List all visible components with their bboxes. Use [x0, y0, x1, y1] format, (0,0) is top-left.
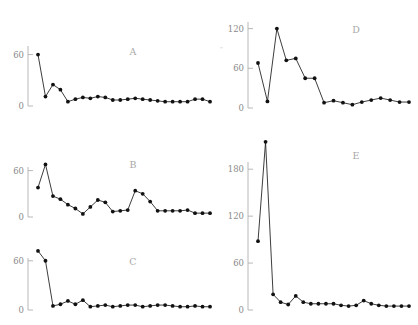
data-point — [201, 97, 205, 101]
y-tick-label-a-1: 60 — [13, 50, 24, 60]
data-point — [275, 27, 279, 31]
data-point — [141, 97, 145, 101]
data-point — [208, 100, 212, 104]
data-point — [339, 303, 343, 307]
panel-letter-a: A — [129, 46, 137, 57]
data-point — [322, 101, 326, 105]
data-point — [193, 97, 197, 101]
data-point — [148, 200, 152, 204]
panel-a-chart: 060A — [0, 36, 215, 120]
data-point — [103, 96, 107, 100]
data-point — [111, 305, 115, 309]
data-point — [118, 98, 122, 102]
data-point — [266, 99, 270, 103]
data-point — [59, 302, 63, 306]
data-point — [256, 239, 260, 243]
data-point — [163, 303, 167, 307]
data-point — [294, 56, 298, 60]
data-point — [88, 96, 92, 100]
data-point — [66, 100, 70, 104]
data-point — [156, 209, 160, 213]
data-point — [133, 303, 137, 307]
data-point — [360, 100, 364, 104]
panel-letter-e: E — [353, 150, 360, 161]
data-point — [186, 305, 190, 309]
data-point — [44, 259, 48, 263]
data-point — [96, 198, 100, 202]
stray-tick-mark — [218, 44, 228, 52]
data-point — [103, 200, 107, 204]
data-point — [309, 302, 313, 306]
data-point — [133, 96, 137, 100]
y-tick-label-e-0: 0 — [239, 305, 244, 315]
series-line-e — [258, 142, 409, 306]
data-point — [126, 97, 130, 101]
data-point — [51, 83, 55, 87]
data-point — [332, 302, 336, 306]
data-point — [59, 197, 63, 201]
series-line-b — [38, 164, 210, 214]
series-line-a — [38, 55, 210, 102]
data-point — [51, 194, 55, 198]
y-tick-label-a-0: 0 — [19, 101, 24, 111]
data-point — [384, 304, 388, 308]
data-point — [341, 101, 345, 105]
panel-letter-d: D — [352, 24, 360, 35]
data-point — [118, 304, 122, 308]
data-point — [118, 209, 122, 213]
data-point — [294, 294, 298, 298]
panel-d-chart: 060120D — [213, 8, 418, 120]
data-point — [303, 76, 307, 80]
data-point — [193, 304, 197, 308]
data-point — [347, 304, 351, 308]
data-point — [36, 249, 40, 253]
data-point — [126, 303, 130, 307]
data-point — [186, 208, 190, 212]
data-point — [313, 76, 317, 80]
data-point — [201, 211, 205, 215]
data-point — [369, 98, 373, 102]
data-point — [324, 302, 328, 306]
data-point — [317, 302, 321, 306]
data-point — [96, 304, 100, 308]
data-point — [284, 58, 288, 62]
y-tick-label-d-2: 120 — [228, 24, 244, 34]
data-point — [141, 305, 145, 309]
data-point — [88, 305, 92, 309]
data-point — [178, 100, 182, 104]
data-point — [193, 211, 197, 215]
data-point — [362, 299, 366, 303]
panel-letter-c: C — [129, 256, 136, 267]
data-point — [81, 298, 85, 302]
data-point — [379, 96, 383, 100]
data-point — [133, 189, 137, 193]
data-point — [81, 96, 85, 100]
series-line-d — [258, 29, 409, 105]
data-point — [126, 208, 130, 212]
data-point — [59, 88, 63, 92]
data-point — [81, 212, 85, 216]
data-point — [111, 210, 115, 214]
data-point — [156, 99, 160, 103]
multi-panel-figure: 060A 060B 060C 060120D 060120180E — [0, 0, 418, 325]
data-point — [178, 209, 182, 213]
data-point — [73, 97, 77, 101]
data-point — [264, 140, 268, 144]
data-point — [407, 100, 411, 104]
data-point — [279, 300, 283, 304]
data-point — [407, 304, 411, 308]
data-point — [163, 100, 167, 104]
data-point — [36, 186, 40, 190]
data-point — [377, 303, 381, 307]
y-tick-label-d-0: 0 — [239, 103, 244, 113]
data-point — [66, 203, 70, 207]
y-tick-label-c-1: 60 — [13, 256, 24, 266]
data-point — [51, 304, 55, 308]
data-point — [350, 103, 354, 107]
y-tick-label-e-3: 180 — [228, 164, 244, 174]
data-point — [171, 209, 175, 213]
data-point — [178, 305, 182, 309]
panel-e-chart: 060120180E — [213, 122, 418, 322]
data-point — [148, 98, 152, 102]
data-point — [392, 304, 396, 308]
